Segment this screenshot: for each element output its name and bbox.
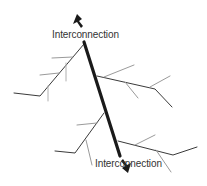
trunk-line: [84, 42, 120, 156]
interconnection-label-top: Interconnection: [52, 29, 119, 40]
arrow-up-icon: [73, 14, 83, 28]
branch-upper-left: [14, 44, 84, 101]
interconnection-label-bottom: Interconnection: [95, 158, 162, 169]
branch-upper-right: [97, 65, 172, 107]
